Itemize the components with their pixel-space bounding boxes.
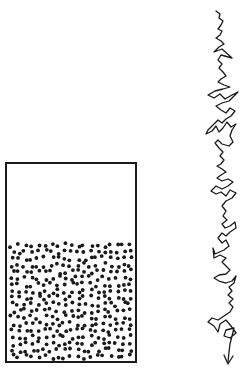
particle [31,333,35,337]
particle [43,289,47,293]
particle [94,285,98,289]
particle [96,353,100,357]
particle [12,353,16,357]
particle [16,315,20,319]
particle [44,301,48,305]
particle [11,344,15,348]
particle [128,317,132,321]
particle [97,250,101,254]
particle [108,243,112,247]
particle [108,315,112,319]
particle [63,248,67,252]
particle [36,249,40,253]
particle [10,349,14,353]
particle [38,244,42,248]
particle [109,301,113,305]
particle [78,291,82,295]
particle [43,327,47,331]
particle [12,324,16,328]
particle [25,244,29,248]
particle [93,255,97,259]
particle [116,243,120,247]
particle [108,323,112,327]
particle [25,270,29,274]
particle [102,341,106,345]
particle [82,261,86,265]
particle [51,242,55,246]
particle [52,341,56,345]
particle [93,329,97,333]
particle [18,337,22,341]
particle [24,321,28,325]
particle [103,301,107,305]
particle [52,357,56,361]
particle [55,283,59,287]
particle [52,291,56,295]
particle [63,347,67,351]
particle [82,270,86,274]
particle [30,250,34,254]
particle [87,350,91,354]
particle [64,313,68,317]
particle [49,249,53,253]
particle [130,255,134,259]
particle [120,242,124,246]
particle [110,354,114,358]
particle [82,357,86,361]
particle [103,294,107,298]
particle [71,281,75,285]
particle [76,268,80,272]
particle [64,298,68,302]
particle [38,294,42,298]
particle [70,290,74,294]
particle [10,282,14,286]
particle [88,281,92,285]
particle [31,291,35,295]
particle [69,249,73,253]
particle [102,268,106,272]
particle [34,265,38,269]
particle [64,277,68,281]
particle [51,300,55,304]
particle [113,304,117,308]
particle [44,353,48,357]
particle [18,252,22,256]
particle [129,349,133,353]
particle [94,317,98,321]
particle [97,336,101,340]
particle [122,283,126,287]
particle [77,347,81,351]
particle [113,341,117,345]
particle [25,258,29,262]
particle [84,302,88,306]
particle [108,284,112,288]
particle [64,241,68,245]
particle [9,276,13,280]
particle [129,323,133,327]
particle [61,357,65,361]
particle [51,277,55,281]
particle [10,265,14,269]
particle [89,249,93,253]
random-walk-path [206,11,238,362]
particle [42,298,46,302]
particle [81,288,85,292]
particle [15,263,19,267]
container-box [6,163,136,362]
particle [67,258,71,262]
particle [80,314,84,318]
particle [21,249,25,253]
particle [57,344,61,348]
particle [12,250,16,254]
particle [90,272,94,276]
particle [11,301,15,305]
particle [110,265,114,269]
particle [83,311,87,315]
particle [102,322,106,326]
particle [12,269,16,273]
particle [17,329,21,333]
particle [24,340,28,344]
particle [68,295,72,299]
particle [29,297,33,301]
particle [117,290,121,294]
